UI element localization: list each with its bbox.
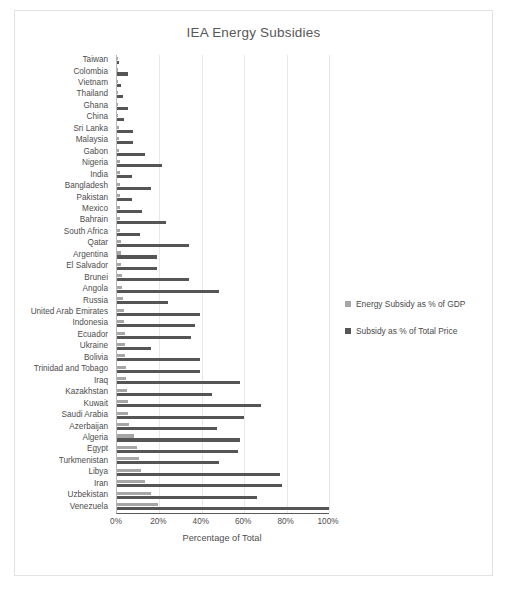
y-axis-label: El Salvador xyxy=(66,262,108,270)
y-axis-label: Thailand xyxy=(77,90,108,98)
bar-energy-subsidy-gdp xyxy=(117,286,122,289)
x-axis-tick: 100% xyxy=(318,517,339,526)
bar-energy-subsidy-gdp xyxy=(117,377,126,380)
x-axis-tick: 40% xyxy=(193,517,209,526)
bar-energy-subsidy-gdp xyxy=(117,400,128,403)
bar-subsidy-total-price xyxy=(117,118,124,121)
bar-rows xyxy=(117,55,329,513)
y-axis-label: Venezuela xyxy=(70,503,108,511)
y-axis-label: Vietnam xyxy=(78,79,108,87)
bar-energy-subsidy-gdp xyxy=(117,274,122,277)
y-axis-label: Brunei xyxy=(84,274,108,282)
bar-row xyxy=(117,112,329,123)
x-axis-title: Percentage of Total xyxy=(116,533,328,543)
bar-row xyxy=(117,490,329,501)
legend-item[interactable]: Energy Subsidy as % of GDP xyxy=(345,299,490,309)
bar-row xyxy=(117,78,329,89)
bar-subsidy-total-price xyxy=(117,130,133,133)
y-axis-label: Kuwait xyxy=(83,400,108,408)
bar-row xyxy=(117,158,329,169)
bar-row xyxy=(117,261,329,272)
bar-subsidy-total-price xyxy=(117,381,240,384)
bar-subsidy-total-price xyxy=(117,370,200,373)
y-axis-label: Ghana xyxy=(83,102,108,110)
bar-row xyxy=(117,249,329,260)
bar-energy-subsidy-gdp xyxy=(117,309,124,312)
bar-energy-subsidy-gdp xyxy=(117,68,118,71)
plot-area xyxy=(116,55,329,514)
legend-item[interactable]: Subsidy as % of Total Price xyxy=(345,326,490,336)
bar-energy-subsidy-gdp xyxy=(117,446,137,449)
bar-row xyxy=(117,341,329,352)
x-axis-tick: 20% xyxy=(150,517,166,526)
bar-subsidy-total-price xyxy=(117,72,128,75)
bar-subsidy-total-price xyxy=(117,427,217,430)
bar-energy-subsidy-gdp xyxy=(117,343,125,346)
x-axis-tick: 80% xyxy=(277,517,293,526)
bar-energy-subsidy-gdp xyxy=(117,103,118,106)
y-axis-label: Mexico xyxy=(82,205,108,213)
bar-subsidy-total-price xyxy=(117,438,240,441)
bar-row xyxy=(117,238,329,249)
bar-energy-subsidy-gdp xyxy=(117,149,119,152)
chart-container: IEA Energy Subsidies TaiwanColombiaVietn… xyxy=(14,10,493,576)
y-axis-label: Qatar xyxy=(88,239,108,247)
y-axis-label: Gabon xyxy=(83,148,108,156)
y-axis-label: India xyxy=(90,171,108,179)
legend-swatch-icon xyxy=(345,301,351,307)
y-axis-label: Libya xyxy=(88,468,108,476)
bar-row xyxy=(117,284,329,295)
y-axis-label: Algeria xyxy=(83,434,109,442)
bar-row xyxy=(117,124,329,135)
y-axis-label: Sri Lanka xyxy=(73,125,108,133)
bar-energy-subsidy-gdp xyxy=(117,320,124,323)
bar-energy-subsidy-gdp xyxy=(117,194,120,197)
y-axis-label: Iran xyxy=(94,480,108,488)
y-axis-label: United Arab Emirates xyxy=(31,308,108,316)
y-axis-label: Saudi Arabia xyxy=(62,411,108,419)
bar-energy-subsidy-gdp xyxy=(117,57,118,60)
y-axis-label: Argentina xyxy=(73,251,108,259)
bar-row xyxy=(117,101,329,112)
y-axis-label: Russia xyxy=(83,297,108,305)
bar-subsidy-total-price xyxy=(117,95,123,98)
bar-energy-subsidy-gdp xyxy=(117,80,118,83)
y-axis-label: Uzbekistan xyxy=(67,491,108,499)
bar-row xyxy=(117,432,329,443)
bar-subsidy-total-price xyxy=(117,496,257,499)
bar-subsidy-total-price xyxy=(117,61,119,64)
bar-energy-subsidy-gdp xyxy=(117,91,118,94)
bar-subsidy-total-price xyxy=(117,450,238,453)
bar-row xyxy=(117,204,329,215)
bar-row xyxy=(117,135,329,146)
y-axis-label: Bahrain xyxy=(80,216,108,224)
bar-subsidy-total-price xyxy=(117,461,219,464)
bar-row xyxy=(117,501,329,512)
bar-row xyxy=(117,272,329,283)
bar-row xyxy=(117,467,329,478)
bar-energy-subsidy-gdp xyxy=(117,503,158,506)
bar-subsidy-total-price xyxy=(117,141,133,144)
x-axis-tick: 0% xyxy=(110,517,122,526)
bar-row xyxy=(117,181,329,192)
bar-row xyxy=(117,215,329,226)
bar-subsidy-total-price xyxy=(117,484,282,487)
y-axis-label: Pakistan xyxy=(77,194,108,202)
chart-legend: Energy Subsidy as % of GDPSubsidy as % o… xyxy=(345,299,490,353)
bar-energy-subsidy-gdp xyxy=(117,412,128,415)
y-axis-labels: TaiwanColombiaVietnamThailandGhanaChinaS… xyxy=(15,55,113,513)
bar-energy-subsidy-gdp xyxy=(117,240,121,243)
bar-row xyxy=(117,89,329,100)
y-axis-label: Bolivia xyxy=(84,354,108,362)
bar-row xyxy=(117,192,329,203)
y-axis-label: Kazakhstan xyxy=(65,388,108,396)
y-axis-label: Angola xyxy=(83,285,109,293)
bar-energy-subsidy-gdp xyxy=(117,457,139,460)
bar-subsidy-total-price xyxy=(117,164,162,167)
y-axis-label: Bangladesh xyxy=(65,182,108,190)
y-axis-label: Taiwan xyxy=(83,56,109,64)
bar-subsidy-total-price xyxy=(117,84,121,87)
bar-subsidy-total-price xyxy=(117,244,189,247)
bar-row xyxy=(117,410,329,421)
bar-row xyxy=(117,398,329,409)
